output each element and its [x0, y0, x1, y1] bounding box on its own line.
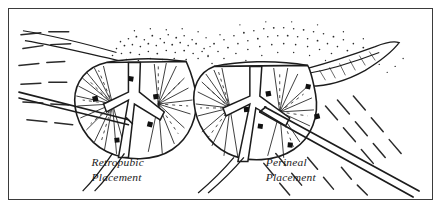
caption-perineal-line1: Perineal — [265, 156, 307, 168]
panel-perineal: Perineal Placement — [194, 21, 419, 197]
dashed-tissue-planes — [19, 32, 73, 125]
illustration-frame: Retropubic Placement — [8, 8, 433, 200]
caption-perineal-line2: Placement — [265, 171, 317, 183]
illustration-canvas: Retropubic Placement — [9, 9, 432, 199]
periprostatic-fat-stipple — [112, 28, 211, 61]
illustration-root: Retropubic Placement — [0, 0, 442, 210]
panel-retropubic: Retropubic Placement — [19, 28, 211, 191]
urethra-exit-lines — [198, 157, 244, 193]
seminal-vesicle — [308, 42, 400, 86]
fascia-lines — [23, 31, 119, 61]
caption-retropubic-line2: Placement — [91, 171, 143, 183]
caption-retropubic-line1: Retropubic — [91, 156, 144, 169]
